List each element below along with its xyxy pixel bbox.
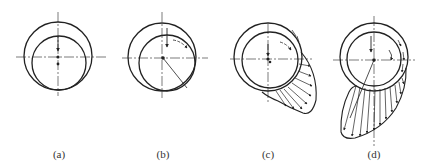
center-dot — [266, 57, 269, 60]
pressure-arrows — [276, 64, 312, 109]
journal-circle — [242, 32, 298, 88]
journal-center-dot — [57, 63, 60, 66]
radius-line — [163, 58, 187, 88]
panel-d — [333, 16, 415, 146]
journal-circle — [32, 36, 86, 90]
rotation-arrow — [389, 50, 392, 60]
radius-line — [350, 60, 374, 118]
pressure-envelope — [341, 68, 406, 138]
bearing-center-dot — [56, 55, 59, 58]
panel-label-a: (a) — [44, 148, 74, 160]
bearing-diagram — [0, 0, 428, 168]
center-dot — [161, 56, 165, 60]
panel-b — [122, 12, 208, 98]
panel-a — [16, 12, 108, 96]
rotation-arrow — [280, 42, 291, 50]
journal-center-dot — [269, 61, 272, 64]
panel-label-b: (b) — [148, 148, 178, 160]
panel-c — [230, 23, 316, 113]
panel-label-d: (d) — [359, 148, 389, 160]
panel-label-c: (c) — [253, 148, 283, 160]
